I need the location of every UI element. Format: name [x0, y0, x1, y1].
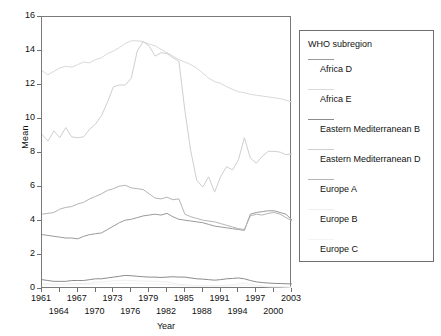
x-tick-mark [220, 288, 221, 292]
x-tick-label: 1982 [146, 306, 186, 316]
x-tick-mark [291, 288, 292, 292]
x-tick-mark [273, 288, 274, 292]
legend: WHO subregion Africa DAfrica EEastern Me… [299, 30, 434, 262]
x-tick-mark [112, 288, 113, 292]
series-line [42, 284, 292, 288]
series-line [42, 41, 292, 102]
legend-label: Europe C [320, 244, 358, 254]
y-tick-label: 8 [13, 146, 35, 156]
legend-label: Africa D [320, 64, 352, 74]
legend-swatch [308, 59, 334, 60]
y-tick-label: 0 [13, 282, 35, 292]
legend-label: Europe A [320, 184, 357, 194]
x-axis-title: Year [41, 321, 291, 331]
legend-swatch [308, 149, 334, 150]
legend-swatch [308, 119, 334, 120]
x-tick-label: 2003 [271, 293, 311, 303]
y-tick-label: 16 [13, 10, 35, 20]
x-tick-label: 1979 [128, 293, 168, 303]
legend-label: Eastern Mediterranean B [320, 124, 420, 134]
y-tick-label: 6 [13, 180, 35, 190]
x-tick-label: 1991 [200, 293, 240, 303]
x-tick-label: 1964 [39, 306, 79, 316]
legend-swatch [308, 239, 334, 240]
x-tick-label: 1967 [57, 293, 97, 303]
x-tick-label: 1994 [217, 306, 257, 316]
legend-label: Africa E [320, 94, 352, 104]
x-tick-mark [166, 288, 167, 292]
x-tick-mark [77, 288, 78, 292]
x-tick-mark [148, 288, 149, 292]
y-tick-label: 2 [13, 248, 35, 258]
x-tick-mark [130, 288, 131, 292]
y-tick-label: 14 [13, 44, 35, 54]
x-tick-label: 1988 [182, 306, 222, 316]
line-chart: Mean 0246810121416 196119671973197919851… [0, 0, 441, 336]
x-tick-label: 1997 [235, 293, 275, 303]
x-tick-label: 1973 [92, 293, 132, 303]
x-tick-label: 1976 [110, 306, 150, 316]
plot-area [41, 16, 291, 288]
legend-label: Eastern Mediterranean D [320, 154, 421, 164]
x-tick-mark [41, 288, 42, 292]
series-line [42, 275, 292, 284]
x-tick-mark [255, 288, 256, 292]
y-tick-label: 12 [13, 78, 35, 88]
x-tick-label: 1970 [75, 306, 115, 316]
legend-swatch [308, 209, 334, 210]
legend-swatch [308, 179, 334, 180]
x-tick-mark [237, 288, 238, 292]
x-tick-mark [184, 288, 185, 292]
y-tick-label: 4 [13, 214, 35, 224]
legend-title: WHO subregion [308, 39, 372, 49]
x-tick-mark [59, 288, 60, 292]
x-tick-label: 1985 [164, 293, 204, 303]
series-line [42, 185, 292, 229]
legend-label: Europe B [320, 214, 358, 224]
x-tick-mark [95, 288, 96, 292]
x-tick-mark [202, 288, 203, 292]
x-tick-label: 1961 [21, 293, 61, 303]
legend-swatch [308, 89, 334, 90]
series-lines [42, 17, 292, 289]
x-tick-label: 2000 [253, 306, 293, 316]
y-tick-label: 10 [13, 112, 35, 122]
